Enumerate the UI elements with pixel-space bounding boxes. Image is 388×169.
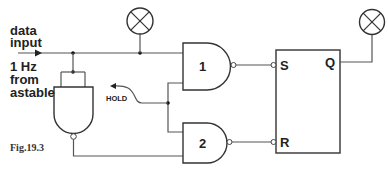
r-pin-label: R	[280, 135, 290, 150]
lamp-q-icon	[360, 10, 385, 35]
gate-1-label: 1	[199, 59, 206, 74]
nand-gate-2	[183, 123, 232, 163]
data-input-wire	[18, 50, 183, 57]
r-input-bubble	[271, 140, 276, 145]
data-input-label-2: input	[10, 35, 42, 50]
s-input-bubble	[271, 63, 276, 68]
clock-label-3: astable	[10, 85, 55, 100]
nand-gate-1	[183, 43, 236, 90]
gate-2-label: 2	[199, 136, 206, 151]
q-pin-label: Q	[325, 55, 335, 70]
hold-label: HOLD	[106, 94, 128, 103]
inverter-output-wire	[74, 139, 184, 156]
input-arrow-icon	[35, 50, 42, 57]
gate-1-output-bubble	[231, 63, 236, 68]
hold-arrow-icon	[110, 83, 116, 89]
hold-wire	[110, 83, 183, 132]
figure-caption: Fig.19.3	[10, 142, 44, 153]
inverter-input-wires	[61, 53, 85, 87]
lamp-data-icon	[127, 8, 153, 53]
inverter-output-bubble	[71, 134, 77, 140]
q-output-wire	[340, 34, 372, 62]
gate-2-output-bubble	[227, 140, 232, 145]
nand-gate-inverter	[54, 87, 93, 139]
s-pin-label: S	[280, 58, 289, 73]
circuit-diagram: data input 1 Hz from astable HOLD 1 2 S …	[0, 0, 388, 169]
